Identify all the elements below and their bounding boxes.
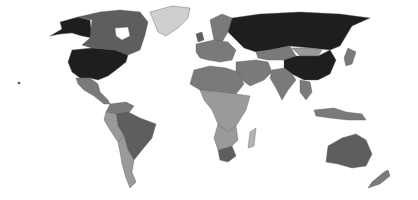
region-greenland[interactable]	[150, 6, 190, 36]
region-mexico[interactable]	[76, 78, 110, 104]
region-colombia-venezuela[interactable]	[106, 102, 134, 114]
region-alaska[interactable]	[50, 17, 92, 38]
region-hawaii[interactable]	[18, 82, 20, 84]
region-madagascar[interactable]	[248, 128, 256, 148]
region-southeast-asia[interactable]	[300, 80, 312, 100]
region-united-states[interactable]	[68, 48, 128, 80]
region-australia[interactable]	[326, 134, 372, 168]
region-uk[interactable]	[196, 32, 204, 42]
region-central-africa[interactable]	[200, 90, 250, 132]
map-svg	[0, 0, 418, 200]
region-japan[interactable]	[344, 48, 356, 66]
region-scandinavia[interactable]	[210, 14, 232, 42]
region-new-zealand[interactable]	[368, 170, 390, 188]
region-western-europe[interactable]	[196, 40, 236, 62]
region-mongolia[interactable]	[292, 48, 322, 56]
region-indonesia[interactable]	[314, 108, 366, 120]
world-choropleth-map	[0, 0, 418, 200]
region-russia[interactable]	[228, 12, 370, 52]
